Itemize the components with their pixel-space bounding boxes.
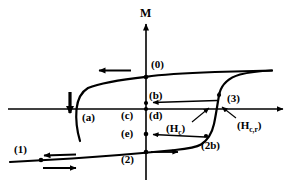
point-label-b: (b) [149,90,162,101]
marker-point-0 [144,75,149,80]
point-label-e: (e) [121,128,133,139]
hysteresis-figure: M (0) (b) (c) (d) (e) (1) (2) (2b) (3) (… [0,0,297,184]
point-label-1: (1) [14,144,27,155]
arrow-lower-branch-leftward [44,155,76,156]
pointer-hc [192,108,209,122]
point-label-2: (2) [121,154,134,165]
label-hcr-prefix: (H [237,119,249,131]
marker-point-cd [144,107,148,111]
upper-right-join-curve [220,71,273,94]
label-hcr-subscript: c,r [249,125,258,134]
point-label-0: (0) [151,59,164,70]
point-label-a: (a) [82,112,95,123]
point-label-c: (c) [121,110,133,121]
arrow-projection-to-b [153,101,217,103]
label-hcr: (Hc,r) [237,120,261,134]
axis-label-m: M [140,7,151,19]
marker-point-1 [39,158,44,163]
marker-point-2 [144,150,149,155]
point-label-d: (d) [149,110,162,121]
marker-point-e [144,132,149,137]
point-label-3: (3) [227,93,240,104]
label-hcr-suffix: ) [258,119,262,131]
marker-point-b [144,101,148,105]
point-label-2b: (2b) [201,140,220,151]
lower-branch-curve [10,93,220,162]
label-hc-prefix: (H [166,122,178,134]
marker-point-3 [217,93,221,97]
label-hc: (Hc) [166,123,185,137]
label-hc-suffix: ) [182,122,186,134]
